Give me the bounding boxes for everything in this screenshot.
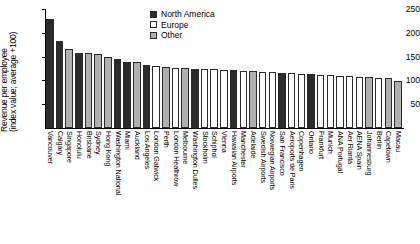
x-axis-tick-label: Washington National (114, 131, 121, 195)
bar-slot (84, 9, 94, 128)
bar[interactable] (65, 49, 73, 128)
x-axis-tick-label: Macau (394, 131, 401, 152)
bar[interactable] (385, 78, 393, 128)
x-axis-label-slot: Aeroports de Paris (287, 130, 297, 242)
bar-slot (248, 9, 258, 128)
x-axis-tick-label: Melbourne (182, 131, 189, 164)
legend-swatch-icon (150, 21, 157, 28)
x-axis-tick-label: ANA Portugal (336, 131, 343, 173)
x-axis-category-labels: VancouverCalgarySingaporeHonoluluBrisban… (45, 130, 403, 242)
x-axis-line (45, 128, 404, 129)
legend-item[interactable]: North America (150, 9, 215, 20)
bar[interactable] (288, 73, 296, 128)
bar[interactable] (307, 74, 315, 128)
bar-slot (384, 9, 394, 128)
x-axis-label-slot: Adelaide (248, 130, 258, 242)
bar[interactable] (133, 62, 141, 128)
x-axis-tick-label: Stockholm (201, 131, 208, 164)
x-axis-label-slot: San Francisco (277, 130, 287, 242)
bar[interactable] (278, 73, 286, 128)
bar[interactable] (298, 74, 306, 128)
bar-slot (335, 9, 345, 128)
x-axis-label-slot: Perth (161, 130, 171, 242)
x-axis-tick-label: Swedish Airports (259, 131, 266, 183)
x-axis-tick-label: Sydney (95, 131, 102, 154)
x-axis-label-slot: Macau (393, 130, 403, 242)
x-axis-tick-label: Ontario (307, 131, 314, 154)
bar-slot (277, 9, 287, 128)
x-axis-tick-label: Copenhagen (298, 131, 305, 171)
x-axis-label-slot: London Heathrow (171, 130, 181, 242)
x-axis-tick-label: Adelaide (249, 131, 256, 158)
x-axis-label-slot: Los Angeles (142, 130, 152, 242)
legend: North AmericaEuropeOther (150, 9, 215, 41)
bar-slot (296, 9, 306, 128)
bar[interactable] (269, 72, 277, 128)
bar-slot (64, 9, 74, 128)
bar[interactable] (220, 70, 228, 128)
x-axis-tick-label: Honolulu (75, 131, 82, 159)
x-axis-label-slot: Auckland (132, 130, 142, 242)
bar[interactable] (394, 81, 402, 128)
x-axis-label-slot: Brisbane (84, 130, 94, 242)
bar[interactable] (230, 70, 238, 128)
x-axis-label-slot: Ontario (306, 130, 316, 242)
y-axis-title: Revenue per employee (index value; avera… (0, 2, 13, 132)
bar[interactable] (162, 67, 170, 128)
x-axis-tick-label: Schiphol (211, 131, 218, 158)
x-axis-tick-label: Vienna (220, 131, 227, 153)
bar-slot (267, 9, 277, 128)
x-axis-label-slot: Washington Dulles (190, 130, 200, 242)
bar[interactable] (143, 65, 151, 128)
bar[interactable] (336, 76, 344, 128)
bar[interactable] (317, 75, 325, 128)
bar[interactable] (114, 59, 122, 128)
bar[interactable] (181, 68, 189, 128)
x-axis-tick-label: Norwegian Airports (269, 131, 276, 190)
x-axis-tick-label: Aeroports de Paris (288, 131, 295, 189)
bar[interactable] (249, 71, 257, 128)
bar[interactable] (356, 77, 364, 128)
bar-series (45, 9, 403, 128)
bar-slot (345, 9, 355, 128)
bar-slot (229, 9, 239, 128)
bar[interactable] (201, 69, 209, 128)
bar-slot (287, 9, 297, 128)
legend-label: Europe (161, 20, 188, 31)
bar[interactable] (191, 69, 199, 129)
bar[interactable] (85, 53, 93, 128)
x-axis-label-slot: Hawaiian Airports (229, 130, 239, 242)
bar[interactable] (152, 66, 160, 128)
bar[interactable] (56, 41, 64, 128)
bar[interactable] (75, 53, 83, 128)
x-axis-tick-label: Calgary (56, 131, 63, 155)
bar[interactable] (94, 54, 102, 128)
bar[interactable] (259, 72, 267, 128)
x-axis-tick-label: Vancouver (46, 131, 53, 164)
y-axis-title-line2: (index value; average +100) (8, 32, 18, 132)
bar[interactable] (346, 76, 354, 128)
bar[interactable] (375, 78, 383, 128)
bar-slot (325, 9, 335, 128)
legend-item[interactable]: Other (150, 30, 215, 41)
bar[interactable] (240, 71, 248, 128)
bar-slot (219, 9, 229, 128)
bar[interactable] (46, 19, 54, 128)
x-axis-label-slot: Vancouver (45, 130, 55, 242)
bar-slot (393, 9, 403, 128)
bar[interactable] (104, 57, 112, 128)
x-axis-tick-label: Miami (124, 131, 131, 150)
bar[interactable] (327, 75, 335, 128)
x-axis-tick-label: AENA Spain (356, 131, 363, 170)
bar[interactable] (172, 68, 180, 128)
x-axis-label-slot: Vienna (219, 130, 229, 242)
x-axis-tick-label: Aer Rianta (346, 131, 353, 164)
x-axis-tick-label: Capetown (385, 131, 392, 163)
x-axis-label-slot: Calgary (55, 130, 65, 242)
bar-slot (355, 9, 365, 128)
x-axis-label-slot: Berlin (374, 130, 384, 242)
bar[interactable] (210, 69, 218, 128)
bar[interactable] (365, 77, 373, 128)
legend-item[interactable]: Europe (150, 20, 215, 31)
bar[interactable] (123, 62, 131, 128)
